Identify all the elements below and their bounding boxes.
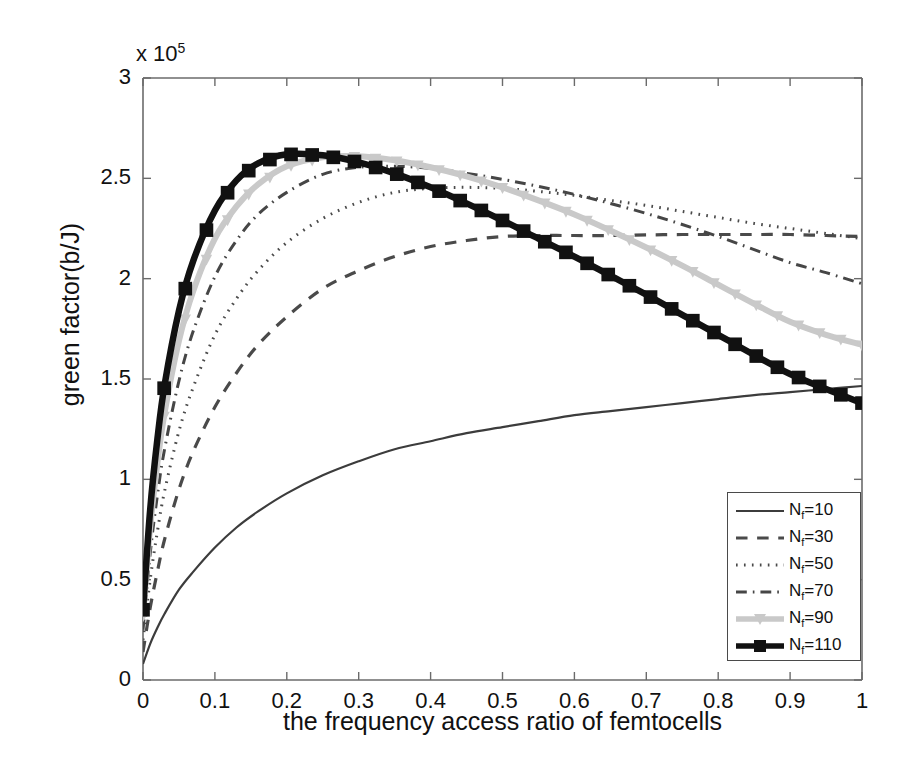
legend-item-nf-50[interactable]: Nf=50 <box>728 551 860 578</box>
y-tick-label: 3 <box>73 64 131 90</box>
y-tick-label: 1.5 <box>73 365 131 391</box>
legend-label: Nf=50 <box>789 554 833 575</box>
y-tick-label: 1 <box>73 465 131 491</box>
legend-item-nf-90[interactable]: Nf=90 <box>728 605 860 632</box>
y-tick-label: 2 <box>73 265 131 291</box>
y-tick-label: 2.5 <box>73 164 131 190</box>
x-tick-label: 0.9 <box>770 688 810 714</box>
y-tick-label: 0 <box>73 666 131 692</box>
x-tick-label: 0.5 <box>483 688 523 714</box>
legend-label: Nf=10 <box>789 500 833 521</box>
y-tick-label: 0.5 <box>73 566 131 592</box>
legend-label: Nf=30 <box>789 527 833 548</box>
x-tick-label: 1 <box>842 688 882 714</box>
legend-line-sample <box>734 582 786 602</box>
x-tick-label: 0.8 <box>698 688 738 714</box>
x-tick-label: 0.3 <box>339 688 379 714</box>
legend-label: Nf=110 <box>789 635 841 656</box>
legend-line-sample <box>734 636 786 656</box>
legend-item-nf-30[interactable]: Nf=30 <box>728 524 860 551</box>
y-axis-exponent: x 105 <box>136 40 185 67</box>
chart-figure: x 105 green factor(b/J) the frequency ac… <box>0 0 910 772</box>
x-tick-label: 0.1 <box>195 688 235 714</box>
x-tick-label: 0.4 <box>411 688 451 714</box>
legend-item-nf-10[interactable]: Nf=10 <box>728 497 860 524</box>
x-tick-label: 0.7 <box>626 688 666 714</box>
x-tick-label: 0.2 <box>267 688 307 714</box>
legend-label: Nf=70 <box>789 581 833 602</box>
legend-item-nf-70[interactable]: Nf=70 <box>728 578 860 605</box>
x-tick-label: 0.6 <box>554 688 594 714</box>
legend-line-sample <box>734 501 786 521</box>
legend-item-nf-110[interactable]: Nf=110 <box>728 632 860 659</box>
legend-line-sample <box>734 609 786 629</box>
legend[interactable]: Nf=10Nf=30Nf=50Nf=70Nf=90Nf=110 <box>727 492 861 661</box>
legend-line-sample <box>734 555 786 575</box>
legend-line-sample <box>734 528 786 548</box>
legend-label: Nf=90 <box>789 608 833 629</box>
